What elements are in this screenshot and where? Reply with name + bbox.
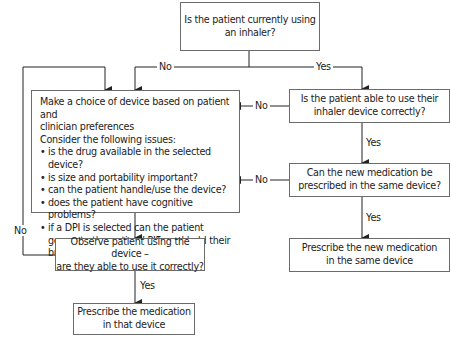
node-text-line: are they able to use it correctly?	[56, 261, 203, 274]
node-text-line: inhaler device correctly?	[314, 106, 426, 119]
node-text-line: Prescribe the medication	[77, 306, 191, 319]
node-prescribe-same-device: Prescribe the new medication in the same…	[289, 238, 450, 272]
node-start-question: Is the patient currently using an inhale…	[180, 2, 320, 51]
edge-label-start-yes: Yes	[314, 61, 333, 72]
node-text-line: Is the patient currently using	[184, 14, 315, 27]
node-text-line: in the same device	[326, 255, 413, 268]
issue-item: can the patient handle/use the device?	[40, 184, 233, 197]
edge-label-same-no: No	[253, 174, 270, 185]
node-able-to-use: Is the patient able to use their inhaler…	[289, 89, 450, 123]
node-text-line: Is the patient able to use their	[301, 93, 439, 106]
node-choose-device: Make a choice of device based on patient…	[31, 90, 240, 213]
edge-label-observe-no: No	[14, 225, 27, 236]
edge-label-able-yes: Yes	[366, 137, 381, 148]
edge-label-observe-yes: Yes	[140, 280, 155, 291]
edge-label-start-no: No	[157, 61, 174, 72]
consider-heading: Consider the following issues:	[40, 134, 233, 147]
node-text-line: prescribed in the same device?	[298, 180, 441, 193]
node-observe-patient: Observe patient using the device – are t…	[55, 238, 205, 271]
node-text-line: Make a choice of device based on patient…	[40, 96, 233, 121]
issue-item: does the patient have cognitive problems…	[40, 197, 233, 222]
node-text-line: Can the new medication be	[307, 167, 433, 180]
issue-item: is size and portability important?	[40, 172, 233, 185]
edge-label-able-no: No	[253, 100, 270, 111]
node-text-line: clinician preferences	[40, 121, 233, 134]
node-same-device: Can the new medication be prescribed in …	[289, 163, 450, 197]
node-prescribe-that-device: Prescribe the medication in that device	[73, 303, 195, 335]
node-text-line: in that device	[103, 319, 165, 332]
edge-label-same-yes: Yes	[366, 212, 381, 223]
node-text-line: Prescribe the new medication	[302, 242, 437, 255]
node-text-line: an inhaler?	[225, 27, 276, 40]
issue-item: is the drug available in the selected de…	[40, 146, 233, 171]
node-text-line: Observe patient using the device –	[56, 236, 204, 261]
